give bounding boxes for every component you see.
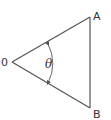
side-oa — [12, 17, 90, 62]
angle-theta-label: θ — [45, 57, 53, 71]
angle-diagram: 0 A B θ — [0, 0, 111, 120]
vertex-o-label: 0 — [1, 56, 8, 69]
vertex-a-label: A — [93, 10, 101, 23]
vertex-b-label: B — [93, 108, 101, 120]
